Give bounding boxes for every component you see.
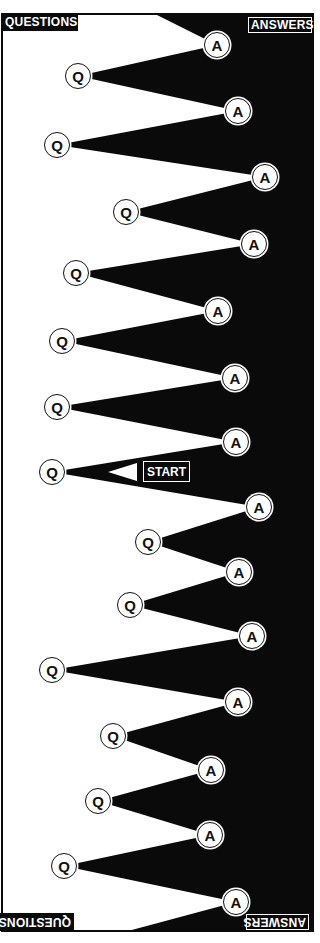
answer-node[interactable]: A (225, 689, 251, 715)
question-node[interactable]: Q (113, 199, 139, 225)
question-node[interactable]: Q (39, 657, 65, 683)
question-node[interactable]: Q (135, 529, 161, 555)
answer-node[interactable]: A (198, 757, 224, 783)
question-node[interactable]: Q (44, 132, 70, 158)
answer-node[interactable]: A (239, 623, 265, 649)
questions-label-top: QUESTIONS (2, 14, 78, 31)
answer-node[interactable]: A (252, 164, 278, 190)
question-node[interactable]: Q (49, 328, 75, 354)
answer-node[interactable]: A (222, 365, 248, 391)
question-node[interactable]: Q (117, 592, 143, 618)
answer-node[interactable]: A (241, 231, 267, 257)
question-node[interactable]: Q (85, 788, 111, 814)
question-node[interactable]: Q (63, 260, 89, 286)
answers-label-bottom: ANSWERS (244, 912, 311, 932)
answers-label-top: ANSWERS (246, 15, 314, 35)
question-node[interactable]: Q (39, 459, 65, 485)
questions-label-bottom: QUESTIONS (0, 913, 74, 931)
answer-node[interactable]: A (225, 98, 251, 124)
answer-node[interactable]: A (223, 429, 249, 455)
answer-node[interactable]: A (223, 889, 249, 915)
answer-node[interactable]: A (205, 298, 231, 324)
question-node[interactable]: Q (100, 723, 126, 749)
answer-node[interactable]: A (226, 559, 252, 585)
answer-node[interactable]: A (197, 822, 223, 848)
start-button[interactable]: START (143, 461, 190, 482)
question-node[interactable]: Q (44, 394, 70, 420)
answer-node[interactable]: A (246, 494, 272, 520)
question-node[interactable]: Q (51, 853, 77, 879)
question-node[interactable]: Q (65, 63, 91, 89)
answer-node[interactable]: A (204, 32, 230, 58)
qa-diagram: QUESTIONS ANSWERS QUESTIONS ANSWERS AQAQ… (0, 0, 320, 943)
